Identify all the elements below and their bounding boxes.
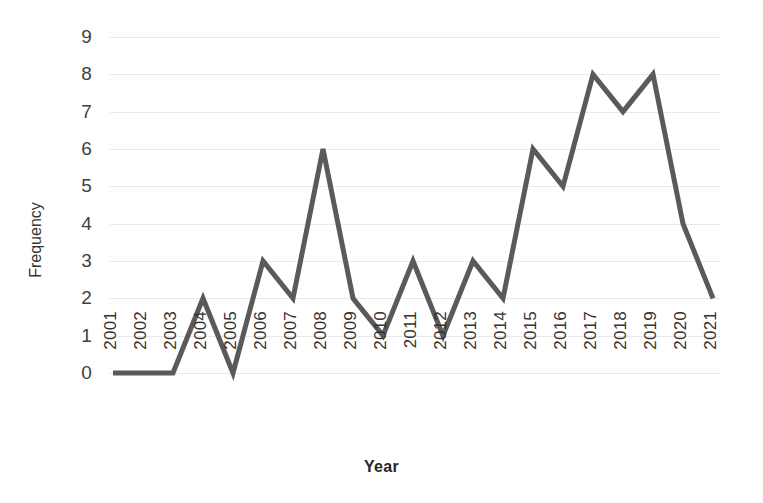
y-axis-tick-label: 1 — [81, 325, 92, 347]
y-axis-tick-labels: 0123456789 — [0, 0, 110, 503]
y-axis-tick-label: 4 — [81, 213, 92, 235]
x-axis-tick-label: 2021 — [713, 311, 733, 381]
y-axis-tick-label: 0 — [81, 362, 92, 384]
y-axis-tick-label: 3 — [81, 250, 92, 272]
y-axis-tick-label: 2 — [81, 287, 92, 309]
y-axis-tick-label: 9 — [81, 26, 92, 48]
y-axis-tick-label: 8 — [81, 63, 92, 85]
line-chart: Frequency 0123456789 2001200220032004200… — [0, 0, 763, 503]
x-axis-title: Year — [0, 458, 763, 476]
y-axis-tick-label: 7 — [81, 101, 92, 123]
y-axis-tick-label: 5 — [81, 175, 92, 197]
x-axis-tick-labels: 2001200220032004200520062007200820092010… — [110, 381, 720, 451]
y-axis-tick-label: 6 — [81, 138, 92, 160]
